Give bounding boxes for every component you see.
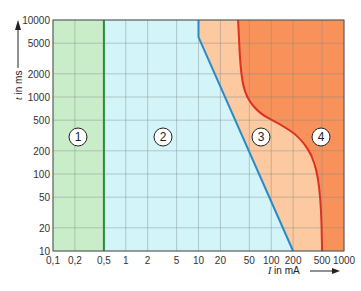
zone-label-4: 4 xyxy=(312,128,330,146)
y-tick-label: 200 xyxy=(33,146,50,157)
y-tick-label: 500 xyxy=(33,115,50,126)
x-tick-label: 500 xyxy=(314,255,331,266)
svg-text:1: 1 xyxy=(75,130,82,144)
x-tick-label: 1 xyxy=(123,255,129,266)
zone-label-3: 3 xyxy=(252,128,270,146)
zone-label-2: 2 xyxy=(154,128,172,146)
y-tick-label: 5000 xyxy=(28,38,51,49)
svg-text:3: 3 xyxy=(258,130,265,144)
x-axis-ticks: 0,10,20,51251020501002005001000 xyxy=(46,255,356,266)
chart: 1234 0,10,20,51251020501002005001000 100… xyxy=(0,0,361,291)
y-axis-title: t in ms xyxy=(13,71,24,100)
x-tick-label: 5 xyxy=(174,255,180,266)
x-tick-label: 0,2 xyxy=(68,255,82,266)
zone-label-1: 1 xyxy=(69,128,87,146)
x-tick-label: 10 xyxy=(193,255,205,266)
y-tick-label: 50 xyxy=(39,192,51,203)
svg-text:4: 4 xyxy=(318,130,325,144)
svg-text:2: 2 xyxy=(160,130,167,144)
svg-text:t in ms: t in ms xyxy=(13,71,24,100)
y-axis-arrowhead-icon xyxy=(15,20,21,30)
y-tick-label: 1000 xyxy=(28,92,51,103)
x-tick-label: 20 xyxy=(215,255,227,266)
x-axis-title: I in mA xyxy=(267,265,300,276)
x-tick-label: 1000 xyxy=(333,255,356,266)
y-tick-label: 100 xyxy=(33,169,50,180)
y-tick-label: 2000 xyxy=(28,69,51,80)
y-axis-ticks: 10000500020001000500200100502010 xyxy=(22,15,50,257)
x-tick-label: 2 xyxy=(145,255,151,266)
y-tick-label: 10000 xyxy=(22,15,50,26)
y-tick-label: 20 xyxy=(39,223,51,234)
x-tick-label: 50 xyxy=(244,255,256,266)
y-tick-label: 10 xyxy=(39,246,51,257)
x-tick-label: 0,5 xyxy=(97,255,111,266)
x-axis-arrowhead-icon xyxy=(332,268,340,274)
